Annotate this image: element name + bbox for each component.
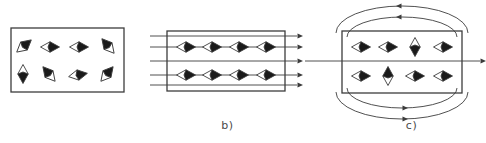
domain-arrow-head — [359, 71, 371, 81]
domain-arrow — [434, 42, 453, 52]
domain-arrow — [70, 42, 89, 52]
domain-arrow-head — [264, 42, 276, 52]
domain-arrow — [39, 63, 59, 84]
domain-arrow — [13, 36, 34, 56]
domain-arrow — [230, 42, 249, 52]
domain-arrow — [18, 65, 28, 84]
domain-arrow — [177, 70, 196, 80]
panel-b-caption: b) — [150, 119, 305, 132]
domain-arrow-head — [237, 70, 249, 80]
domain-arrow-head — [441, 42, 453, 52]
field-line-arrowhead — [298, 44, 304, 49]
field-line-arrowhead — [396, 3, 402, 8]
panel-a-unmagnetised: a) — [0, 0, 150, 143]
external-field-loop — [336, 6, 468, 33]
magnet-body-outline — [11, 28, 124, 92]
panel-b-aligned: b) — [150, 0, 305, 143]
domain-arrow — [379, 42, 398, 52]
domain-arrow — [177, 42, 196, 52]
domain-arrow-head — [413, 71, 425, 81]
magnet-body-outline — [342, 31, 462, 93]
external-field-loop — [347, 17, 457, 37]
domain-arrow-head — [210, 42, 222, 52]
domain-arrow-head — [264, 70, 276, 80]
magnetic-domains-figure: a) b) c) — [0, 0, 486, 143]
domain-arrow-head — [18, 72, 28, 84]
domain-arrow — [352, 71, 371, 81]
domain-arrow — [434, 71, 453, 81]
domain-arrow — [257, 70, 276, 80]
field-line-arrowhead — [396, 14, 402, 19]
panel-a-caption: a) — [0, 119, 66, 132]
field-line-arrowhead — [298, 33, 304, 38]
external-field-loop — [336, 92, 468, 119]
field-line-arrowhead — [298, 58, 304, 63]
domain-arrow-head — [383, 67, 393, 79]
domain-arrow — [352, 42, 371, 52]
domain-arrow — [203, 70, 222, 80]
domain-arrow-head — [184, 42, 196, 52]
panel-c-caption: c) — [321, 119, 486, 132]
domain-arrow — [41, 42, 60, 52]
domain-arrow — [406, 71, 425, 81]
field-line-arrowhead — [298, 82, 304, 87]
domain-arrow-head — [441, 71, 453, 81]
domain-arrow — [410, 38, 420, 57]
domain-arrow-head — [77, 42, 89, 52]
field-line-arrowhead — [481, 58, 486, 63]
domain-arrow — [97, 63, 117, 84]
domain-arrow-head — [359, 42, 371, 52]
panel-c-permanent-magnet: c) — [305, 0, 486, 143]
domain-arrow — [68, 68, 89, 82]
external-field-loop — [347, 88, 457, 108]
domain-arrow-head — [48, 42, 60, 52]
domain-arrow-head — [184, 70, 196, 80]
domain-arrow — [383, 67, 393, 86]
domain-arrow — [257, 42, 276, 52]
domain-arrow-head — [237, 42, 249, 52]
field-line-arrowhead — [403, 105, 409, 110]
field-line-arrowhead — [298, 72, 304, 77]
domain-arrow — [203, 42, 222, 52]
domain-arrow — [98, 35, 118, 56]
domain-arrow-head — [410, 45, 420, 57]
domain-arrow-head — [386, 42, 398, 52]
domain-arrow — [230, 70, 249, 80]
domain-arrow-head — [210, 70, 222, 80]
